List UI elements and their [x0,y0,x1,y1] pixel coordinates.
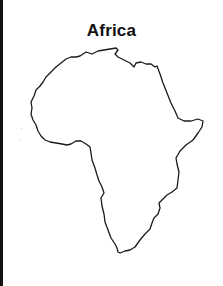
paper-speck [21,128,22,129]
africa-outline-map [0,0,223,286]
africa-coastline [31,48,203,253]
paper-speck [19,140,20,141]
